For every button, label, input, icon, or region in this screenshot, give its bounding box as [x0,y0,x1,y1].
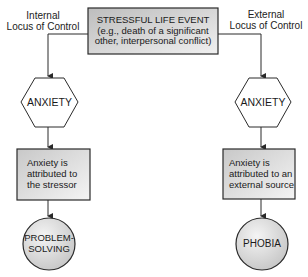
external-locus-line2: Locus of Control [224,20,308,31]
main-box-line1: STRESSFUL LIFE EVENT [92,15,214,26]
problem-solving-line2: SOLVING [23,243,75,254]
main-box-line3: other, interpersonal conflict) [92,36,214,47]
internal-locus-line2: Locus of Control [2,21,84,32]
right-box-line1: Anxiety is [229,157,295,168]
right-box-line2: attributed to an [229,168,295,179]
external-locus-label: External Locus of Control [224,9,308,31]
external-locus-line1: External [224,9,308,20]
problem-solving-label: PROBLEM- SOLVING [23,232,75,254]
right-box-line3: external source [229,179,295,190]
internal-locus-label: Internal Locus of Control [2,10,84,32]
left-box-line1: Anxiety is [27,157,89,168]
right-attribution-text: Anxiety is attributed to an external sou… [229,157,295,190]
phobia-label: PHOBIA [236,238,288,250]
internal-locus-line1: Internal [2,10,84,21]
left-box-line2: attributed to [27,168,89,179]
problem-solving-line1: PROBLEM- [23,232,75,243]
left-anxiety-label: ANXIETY [21,96,78,108]
left-box-line3: the stressor [27,179,89,190]
right-anxiety-label: ANXIETY [235,96,291,108]
connector-left-top [48,34,88,76]
stressful-life-event-text: STRESSFUL LIFE EVENT (e.g., death of a s… [92,15,214,47]
left-attribution-text: Anxiety is attributed to the stressor [27,157,89,190]
connector-right-top [218,34,261,76]
